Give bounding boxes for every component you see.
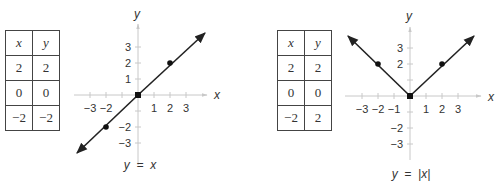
x-tick-label: −2	[372, 103, 385, 115]
x-axis-label: x	[487, 90, 495, 104]
y-tick-label: 3	[397, 42, 403, 54]
x-tick-label: −2	[100, 102, 113, 114]
y-tick-label: 3	[125, 41, 131, 53]
x-tick-label: 2	[167, 102, 173, 114]
origin-point	[407, 93, 413, 99]
graph-caption: y = |x|	[391, 167, 431, 181]
data-point	[167, 60, 173, 66]
y-axis-label: y	[133, 7, 141, 21]
y-tick-label: 1	[125, 73, 131, 85]
data-point	[375, 61, 381, 67]
y-tick-label: −3	[390, 138, 403, 150]
x-tick-label: 3	[455, 103, 461, 115]
x-tick-label: 3	[183, 102, 189, 114]
x-tick-label: 1	[423, 103, 429, 115]
origin-point	[135, 92, 141, 98]
graphs-canvas: x y −3 −2 1 2 3 3 2 1 −2 −3 y = x	[0, 0, 501, 186]
graph-absolute-value: x y −3 −2 −1 1 2 3 3 2 −2 −3 y = |x|	[345, 9, 495, 181]
graph-caption: y = x	[123, 158, 157, 172]
data-point	[439, 61, 445, 67]
data-point	[103, 124, 109, 130]
x-tick-label: −1	[388, 103, 401, 115]
y-tick-label: −2	[390, 122, 403, 134]
x-tick-label: −3	[84, 102, 97, 114]
y-axis-label: y	[405, 9, 413, 23]
y-tick-label: 2	[397, 58, 403, 70]
x-axis-label: x	[213, 88, 221, 102]
y-tick-label: −2	[118, 121, 131, 133]
graph-linear: x y −3 −2 1 2 3 3 2 1 −2 −3 y = x	[74, 7, 221, 172]
x-tick-label: 1	[151, 102, 157, 114]
x-tick-label: −3	[356, 103, 369, 115]
y-tick-label: −3	[118, 137, 131, 149]
x-tick-label: 2	[439, 103, 445, 115]
y-tick-label: 2	[125, 57, 131, 69]
